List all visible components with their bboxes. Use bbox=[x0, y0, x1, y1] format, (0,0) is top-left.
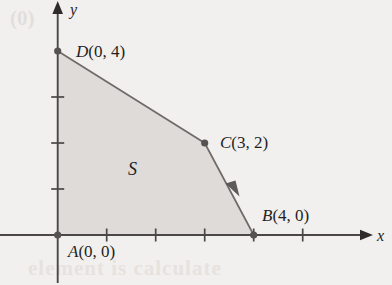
point-label-b: B(4, 0) bbox=[262, 207, 309, 224]
vertex-dot-c bbox=[201, 139, 208, 146]
vertex-dot-a bbox=[54, 231, 61, 238]
point-label-a-name: A bbox=[68, 242, 78, 261]
point-label-a-coords: (0, 0) bbox=[78, 242, 115, 261]
y-axis-arrow-icon bbox=[52, 1, 63, 14]
y-axis-label: y bbox=[70, 2, 77, 18]
point-label-b-name: B bbox=[262, 206, 272, 225]
point-label-a: A(0, 0) bbox=[68, 243, 115, 260]
x-axis-label: x bbox=[377, 228, 384, 244]
x-axis-arrow-icon bbox=[360, 230, 373, 240]
point-label-c-coords: (3, 2) bbox=[231, 133, 268, 152]
figure-coordinate-plane: (0) element is calculate bbox=[0, 0, 392, 285]
vertex-dot-d bbox=[54, 47, 61, 54]
plot-canvas bbox=[0, 0, 392, 285]
vertex-dot-b bbox=[250, 231, 257, 238]
region-label-s: S bbox=[128, 160, 137, 178]
point-label-d: D(0, 4) bbox=[76, 43, 125, 60]
point-label-c: C(3, 2) bbox=[220, 134, 268, 151]
point-label-d-coords: (0, 4) bbox=[88, 42, 125, 61]
point-label-c-name: C bbox=[220, 133, 231, 152]
point-label-d-name: D bbox=[76, 42, 88, 61]
point-label-b-coords: (4, 0) bbox=[272, 206, 309, 225]
